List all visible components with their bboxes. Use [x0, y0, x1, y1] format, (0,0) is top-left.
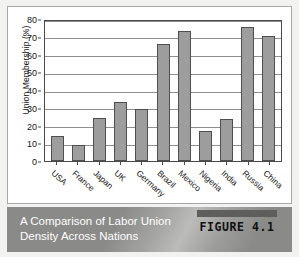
x-label-slot: USA	[46, 166, 67, 204]
figure-container: Union Membership (%) 01020304050607080 U…	[0, 0, 299, 257]
bar-series	[45, 21, 281, 161]
x-label-slot: India	[216, 166, 237, 204]
bar	[135, 109, 148, 161]
x-axis-labels: USAFranceJapanUKGermanyBrazilMexicoNiger…	[44, 166, 282, 204]
y-tick-mark	[38, 73, 41, 74]
x-tick-label: China	[262, 168, 285, 190]
x-tick-mark	[141, 162, 142, 165]
bar	[241, 27, 254, 161]
x-label-slot: Brazil	[152, 166, 173, 204]
bar-slot	[131, 21, 152, 161]
chart-card: Union Membership (%) 01020304050607080 U…	[7, 6, 292, 204]
y-tick-mark	[38, 55, 41, 56]
bar-slot	[258, 21, 279, 161]
y-tick-label: 70	[27, 33, 37, 43]
x-label-slot: France	[67, 166, 88, 204]
bar	[51, 136, 64, 161]
y-tick-mark	[38, 91, 41, 92]
x-label-slot: Mexico	[174, 166, 195, 204]
bar-slot	[47, 21, 68, 161]
x-tick-mark	[162, 162, 163, 165]
x-label-slot: UK	[110, 166, 131, 204]
bar-slot	[152, 21, 173, 161]
x-tick-mark	[205, 162, 206, 165]
x-tick-label: USA	[49, 168, 69, 187]
bar	[157, 44, 170, 161]
x-label-slot: Germany	[131, 166, 152, 204]
x-label-slot: Japan	[89, 166, 110, 204]
figure-tag-label: FIGURE 4.1	[191, 220, 283, 234]
bar-slot	[89, 21, 110, 161]
y-tick-mark	[38, 20, 41, 21]
bar	[220, 119, 233, 161]
x-tick-mark	[77, 162, 78, 165]
x-tick-mark	[226, 162, 227, 165]
bar-slot	[195, 21, 216, 161]
x-label-slot: Nigeria	[195, 166, 216, 204]
y-tick-label: 60	[27, 51, 37, 61]
bar-slot	[68, 21, 89, 161]
bar	[72, 145, 85, 161]
bar	[178, 31, 191, 161]
x-tick-mark	[184, 162, 185, 165]
y-axis-ticks: 01020304050607080	[8, 20, 41, 162]
x-label-slot: Russia	[237, 166, 258, 204]
bar	[93, 118, 106, 161]
x-tick-mark	[120, 162, 121, 165]
y-tick-mark	[38, 126, 41, 127]
x-tick-label: India	[219, 168, 239, 188]
x-tick-mark	[248, 162, 249, 165]
y-tick-label: 80	[27, 15, 37, 25]
y-tick-label: 40	[27, 86, 37, 96]
bar-slot	[110, 21, 131, 161]
bar-slot	[174, 21, 195, 161]
bar-slot	[237, 21, 258, 161]
y-tick-mark	[38, 162, 41, 163]
y-tick-label: 50	[27, 68, 37, 78]
bar	[262, 36, 275, 161]
caption-line-2: Density Across Nations	[20, 229, 190, 244]
bar	[199, 131, 212, 161]
y-tick-mark	[38, 108, 41, 109]
figure-caption-text: A Comparison of Labor Union Density Acro…	[20, 214, 190, 244]
figure-tag: FIGURE 4.1	[191, 210, 283, 234]
x-label-slot: China	[259, 166, 280, 204]
x-tick-mark	[269, 162, 270, 165]
y-tick-label: 10	[27, 139, 37, 149]
y-tick-mark	[38, 37, 41, 38]
y-tick-label: 20	[27, 122, 37, 132]
bar-slot	[216, 21, 237, 161]
caption-line-1: A Comparison of Labor Union	[20, 214, 190, 229]
figure-caption-band: A Comparison of Labor Union Density Acro…	[7, 207, 292, 252]
x-tick-mark	[56, 162, 57, 165]
x-tick-mark	[99, 162, 100, 165]
y-tick-label: 30	[27, 104, 37, 114]
x-tick-label: UK	[113, 168, 128, 183]
y-tick-label: 0	[32, 157, 37, 167]
plot-area	[44, 20, 282, 162]
bar	[114, 102, 127, 161]
figure-tag-rule	[197, 210, 277, 217]
y-tick-mark	[38, 144, 41, 145]
